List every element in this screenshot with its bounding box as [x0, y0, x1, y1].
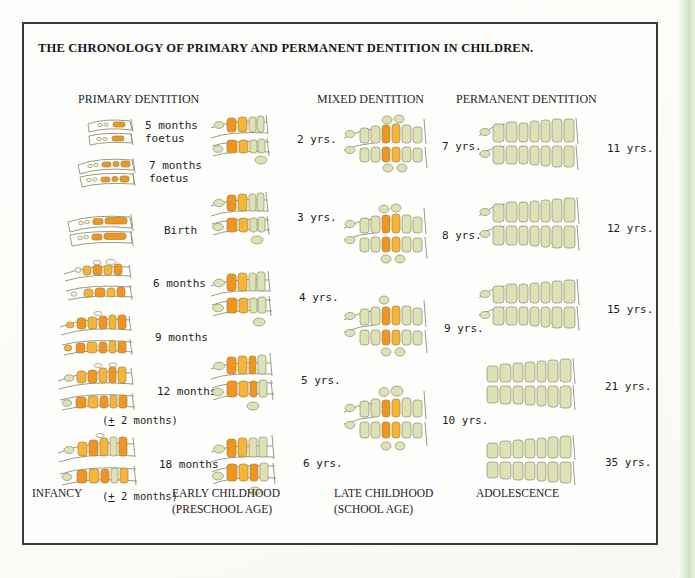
row-stage: 6 months: [62, 260, 206, 308]
tolerance-12-months: (+ 2 months): [102, 414, 178, 426]
row-label: 6 months: [153, 278, 206, 291]
row-label: 5 monthsfoetus: [145, 120, 198, 145]
jaw-illustration-9-yrs: [344, 296, 438, 362]
row-label: 8 yrs.: [442, 230, 482, 243]
jaw-illustration-35-yrs: [479, 432, 601, 494]
column-header-primary: PRIMARY DENTITION: [78, 92, 199, 107]
jaw-illustration-7-months-foetus: [76, 156, 146, 190]
jaw-illustration-3-yrs: [209, 188, 289, 248]
row-stage: 7 yrs.: [344, 116, 482, 178]
row-stage: 8 yrs.: [344, 204, 482, 268]
row-label: 3 yrs.: [297, 212, 337, 225]
stage-label-adolescence: ADOLESCENCE: [476, 486, 559, 502]
row-label: 11 yrs.: [607, 143, 653, 156]
row-stage: 2 yrs.: [209, 112, 337, 168]
stage-label-infancy: INFANCY: [32, 486, 82, 502]
scan-edge-strip: [677, 0, 695, 578]
row-stage: 12 months: [56, 364, 217, 420]
row-stage: 3 yrs.: [209, 188, 337, 248]
row-stage: 7 monthsfoetus: [76, 156, 202, 190]
jaw-illustration-9-months: [58, 312, 152, 364]
row-stage: 12 yrs.: [479, 196, 653, 262]
column-header-permanent: PERMANENT DENTITION: [456, 92, 597, 107]
row-label: 7 yrs.: [442, 141, 482, 154]
row-stage: 9 yrs.: [344, 296, 484, 362]
jaw-illustration-15-yrs: [479, 278, 601, 342]
row-stage: 5 monthsfoetus: [86, 116, 198, 150]
row-stage: 15 yrs.: [479, 278, 653, 342]
row-label: 7 monthsfoetus: [149, 160, 202, 185]
jaw-illustration-5-months-foetus: [86, 116, 142, 150]
row-stage: 9 months: [58, 312, 208, 364]
row-label: 12 months: [157, 386, 217, 399]
row-label: 2 yrs.: [297, 134, 337, 147]
row-label: 35 yrs.: [605, 457, 651, 470]
row-stage: Birth: [66, 212, 197, 250]
row-label: 9 months: [155, 332, 208, 345]
row-stage: 4 yrs.: [209, 266, 339, 330]
jaw-illustration-12-months: [56, 364, 154, 420]
jaw-illustration-2-yrs: [209, 112, 289, 168]
row-stage: 10 yrs.: [344, 386, 488, 456]
column-header-mixed: MIXED DENTITION: [317, 92, 424, 107]
row-label: 15 yrs.: [607, 304, 653, 317]
jaw-illustration-10-yrs: [344, 386, 440, 456]
row-label: 5 yrs.: [301, 375, 341, 388]
row-stage: 35 yrs.: [479, 432, 651, 494]
jaw-illustration-21-yrs: [479, 356, 601, 418]
row-stage: 11 yrs.: [479, 116, 653, 182]
jaw-illustration-6-months: [62, 260, 150, 308]
jaw-illustration-8-yrs: [344, 204, 436, 268]
jaw-illustration-birth: [66, 212, 146, 250]
stage-label-late-childhood: LATE CHILDHOOD (SCHOOL AGE): [334, 486, 433, 517]
page-title: THE CHRONOLOGY OF PRIMARY AND PERMANENT …: [38, 41, 533, 56]
stage-label-early-childhood: EARLY CHILDHOOD (PRESCHOOL AGE): [172, 486, 280, 517]
row-stage: 21 yrs.: [479, 356, 651, 418]
row-label: 6 yrs.: [303, 458, 343, 471]
row-label: Birth: [164, 225, 197, 238]
row-label: 12 yrs.: [607, 223, 653, 236]
row-label: 4 yrs.: [299, 292, 339, 305]
jaw-illustration-4-yrs: [209, 266, 291, 330]
row-stage: 5 yrs.: [209, 348, 341, 414]
row-label: 21 yrs.: [605, 381, 651, 394]
jaw-illustration-11-yrs: [479, 116, 601, 182]
jaw-illustration-12-yrs: [479, 196, 601, 262]
chart-frame: THE CHRONOLOGY OF PRIMARY AND PERMANENT …: [22, 22, 658, 545]
tolerance-18-months: (+ 2 months): [102, 490, 178, 502]
row-label: 9 yrs.: [444, 323, 484, 336]
jaw-illustration-7-yrs: [344, 116, 436, 178]
jaw-illustration-5-yrs: [209, 348, 293, 414]
